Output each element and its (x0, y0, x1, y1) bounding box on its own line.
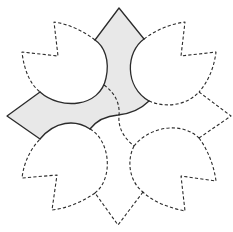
shaded-region (7, 8, 149, 139)
lobe-bottom-right-edge (143, 138, 216, 211)
lobe-top-right-edge (144, 22, 216, 92)
lobe-bottom-right-left-arc (130, 146, 143, 192)
lobe-bottom-right-top-arc (134, 128, 199, 146)
right-point (199, 92, 231, 138)
lobe-bottom-left-edge (22, 139, 95, 210)
lobe-top-left-edge (22, 22, 95, 92)
shaded-top-left-arc (40, 40, 107, 104)
lobe-bottom-left-right-arc (90, 129, 107, 193)
tessellation-figure (0, 0, 233, 232)
bottom-point (95, 192, 143, 225)
diagram-canvas (0, 0, 233, 232)
lobe-top-right-bottom-arc (149, 92, 199, 105)
